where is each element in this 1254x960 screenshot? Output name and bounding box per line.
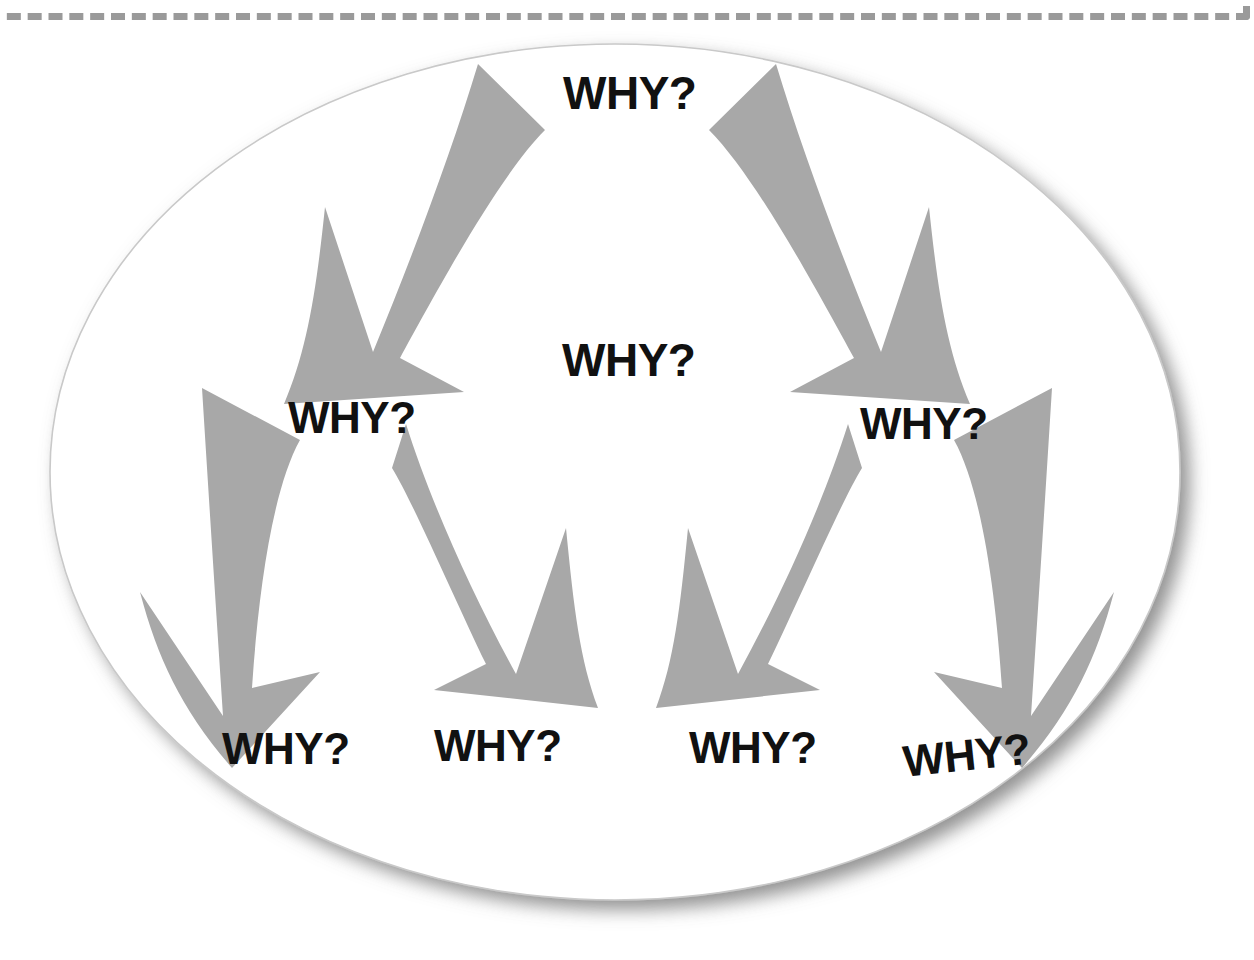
why-label-leaf-2: WHY? (434, 724, 562, 768)
why-label-leaf-3: WHY? (689, 726, 817, 770)
diagram-canvas: WHY? WHY? WHY? WHY? WHY? WHY? WHY? WHY? (0, 0, 1254, 960)
why-label-right-branch: WHY? (860, 402, 988, 446)
arrow-down-left-level2-c (656, 424, 862, 708)
arrow-down-level2-a (140, 388, 320, 768)
arrow-layer (0, 0, 1254, 960)
arrow-down-right-level1 (709, 64, 970, 404)
why-label-leaf-1: WHY? (222, 727, 350, 771)
why-label-root: WHY? (563, 70, 696, 116)
arrow-down-right-level2-b (392, 424, 598, 708)
why-label-center: WHY? (562, 337, 695, 383)
arrow-down-left-level1 (284, 64, 545, 404)
why-label-left-branch: WHY? (288, 396, 416, 440)
